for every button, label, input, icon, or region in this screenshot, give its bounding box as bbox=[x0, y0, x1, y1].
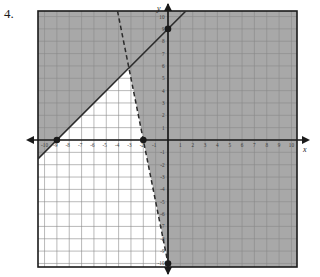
x-tick-label: -6 bbox=[90, 142, 95, 148]
y-tick-label: -3 bbox=[160, 174, 165, 180]
x-tick-label: 10 bbox=[289, 142, 295, 148]
x-tick-label: 2 bbox=[191, 142, 194, 148]
y-tick-label: -4 bbox=[160, 186, 165, 192]
y-tick-label: 5 bbox=[162, 75, 165, 81]
x-tick-label: -10 bbox=[41, 142, 48, 148]
x-tick-label: 5 bbox=[228, 142, 231, 148]
x-axis-label: x bbox=[302, 145, 307, 154]
y-tick-label: 10 bbox=[159, 14, 165, 20]
x-tick-label: -8 bbox=[66, 142, 71, 148]
y-tick-label: 8 bbox=[162, 38, 165, 44]
y-tick-label: -6 bbox=[160, 211, 165, 217]
y-axis-label: y bbox=[156, 4, 161, 13]
x-tick-label: 4 bbox=[216, 142, 219, 148]
x-axis-right-arrow-icon bbox=[302, 136, 310, 144]
y-axis-down-arrow-icon bbox=[164, 267, 172, 275]
coordinate-plane: -10-9-8-7-6-5-4-3-2-112345678910 1098765… bbox=[0, 0, 320, 277]
y-tick-label: 1 bbox=[162, 125, 165, 131]
graph-figure: 4. bbox=[0, 0, 320, 277]
y-tick-label: -10 bbox=[158, 260, 165, 266]
y-tick-label: -7 bbox=[160, 223, 165, 229]
x-tick-label: 9 bbox=[278, 142, 281, 148]
y-axis-up-arrow-icon bbox=[164, 3, 172, 11]
x-tick-label: -2 bbox=[140, 142, 145, 148]
x-tick-label: 8 bbox=[265, 142, 268, 148]
y-tick-label: 6 bbox=[162, 63, 165, 69]
y-tick-label: 7 bbox=[162, 51, 165, 57]
y-tick-label: -9 bbox=[160, 248, 165, 254]
y-tick-label: 9 bbox=[162, 26, 165, 32]
x-axis-left-arrow-icon bbox=[26, 136, 34, 144]
y-tick-label: -2 bbox=[160, 162, 165, 168]
x-tick-label: -5 bbox=[103, 142, 108, 148]
plotted-point bbox=[165, 26, 172, 33]
x-tick-label: 3 bbox=[204, 142, 207, 148]
y-tick-label: 4 bbox=[162, 88, 165, 94]
x-tick-label: -9 bbox=[53, 142, 58, 148]
y-tick-label: -5 bbox=[160, 199, 165, 205]
y-tick-label: 2 bbox=[162, 112, 165, 118]
x-tick-label: -3 bbox=[127, 142, 132, 148]
y-tick-label: -1 bbox=[160, 149, 165, 155]
x-tick-label: -7 bbox=[78, 142, 83, 148]
x-tick-label: -1 bbox=[152, 142, 157, 148]
y-tick-label: 3 bbox=[162, 100, 165, 106]
y-tick-label: -8 bbox=[160, 236, 165, 242]
x-tick-label: 7 bbox=[253, 142, 256, 148]
plotted-point bbox=[165, 260, 172, 267]
x-tick-label: 1 bbox=[179, 142, 182, 148]
x-tick-label: -4 bbox=[115, 142, 120, 148]
x-tick-label: 6 bbox=[241, 142, 244, 148]
